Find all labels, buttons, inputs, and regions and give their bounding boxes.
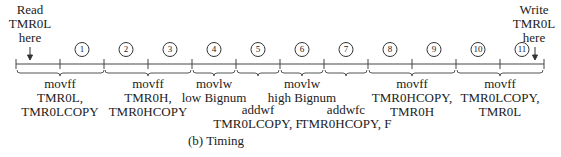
instruction-8-opcode: movff — [461, 77, 540, 91]
instruction-8-operand-2: TMR0L — [461, 105, 540, 119]
cycle-marker-9: 9 — [427, 42, 442, 57]
cycle-marker-10: 10 — [471, 42, 486, 57]
cycle-marker-8: 8 — [383, 42, 398, 57]
instruction-1-opcode: movff — [21, 77, 98, 91]
instruction-4-operand: TMR0LCOPY, F — [213, 117, 302, 131]
cycle-marker-3: 3 — [163, 42, 178, 57]
instruction-5-opcode: movlw — [268, 77, 336, 91]
instruction-5: movlw high Bignum — [268, 77, 336, 105]
instruction-8: movff TMR0LCOPY, TMR0L — [461, 77, 540, 119]
instruction-4-opcode: addwf — [213, 103, 302, 117]
instruction-4: addwf TMR0LCOPY, F — [213, 103, 302, 131]
instruction-6-operand: TMR0HCOPY, F — [301, 117, 392, 131]
instruction-1-operand-2: TMR0LCOPY — [21, 105, 98, 119]
cycle-marker-6: 6 — [295, 42, 310, 57]
instruction-7: movff TMR0HCOPY, TMR0H — [372, 77, 452, 119]
read-annotation: Read TMR0L here — [9, 3, 52, 45]
instruction-2: movff TMR0H, TMR0HCOPY — [109, 77, 188, 119]
instruction-2-operand-1: TMR0H, — [109, 91, 188, 105]
cycle-marker-7: 7 — [339, 42, 354, 57]
read-label-line3: here — [9, 31, 52, 45]
instruction-7-operand-2: TMR0H — [372, 105, 452, 119]
cycle-marker-1: 1 — [75, 42, 90, 57]
write-label-line2: TMR0L — [513, 17, 556, 31]
instruction-3: movlw low Bignum — [182, 77, 247, 105]
instruction-7-operand-1: TMR0HCOPY, — [372, 91, 452, 105]
figure-caption: (b) Timing — [188, 134, 244, 148]
instruction-7-opcode: movff — [372, 77, 452, 91]
instruction-2-opcode: movff — [109, 77, 188, 91]
instruction-1: movff TMR0L, TMR0LCOPY — [21, 77, 98, 119]
instruction-3-opcode: movlw — [182, 77, 247, 91]
instruction-8-operand-1: TMR0LCOPY, — [461, 91, 540, 105]
write-label-line1: Write — [513, 3, 556, 17]
instruction-braces — [17, 70, 543, 76]
read-label-line1: Read — [9, 3, 52, 17]
read-label-line2: TMR0L — [9, 17, 52, 31]
instruction-1-operand-1: TMR0L, — [21, 91, 98, 105]
cycle-marker-2: 2 — [119, 42, 134, 57]
cycle-marker-4: 4 — [207, 42, 222, 57]
instruction-2-operand-2: TMR0HCOPY — [109, 105, 188, 119]
cycle-marker-11: 11 — [515, 42, 530, 57]
cycle-marker-5: 5 — [251, 42, 266, 57]
write-annotation: Write TMR0L here — [513, 3, 556, 45]
